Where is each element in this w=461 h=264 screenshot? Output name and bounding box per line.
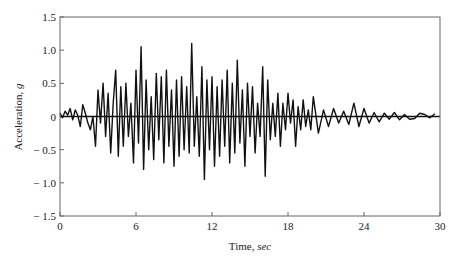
x-tick-label: 6 [133,220,139,232]
x-axis-tick-labels: 0612182430 [57,220,446,232]
y-tick-label: 0.5 [42,77,56,89]
y-tick-label: − 1.5 [33,210,56,222]
x-axis-title: Time, sec [229,240,271,252]
x-tick-label: 24 [359,220,371,232]
y-axis-title: Acceleration, g [12,83,24,151]
y-tick-label: 1.5 [42,11,56,23]
y-axis-title-text: Acceleration, [12,91,24,150]
y-axis-title-unit: g [12,83,24,89]
x-tick-label: 18 [283,220,295,232]
y-tick-label: 1.0 [42,44,56,56]
y-axis-tick-labels: 1.51.00.50− 0.5− 1.0− 1.5 [33,11,56,222]
x-tick-label: 12 [207,220,218,232]
x-axis-title-text: Time, [229,240,255,252]
x-tick-label: 0 [57,220,63,232]
acceleration-time-history-chart: 1.51.00.50− 0.5− 1.0− 1.5 0612182430 Tim… [0,0,461,264]
x-axis-title-unit: sec [257,240,271,252]
y-tick-label: − 0.5 [33,144,56,156]
acceleration-trace [60,44,435,180]
x-tick-label: 30 [435,220,447,232]
y-tick-label: 0 [51,111,57,123]
y-tick-label: − 1.0 [33,177,56,189]
